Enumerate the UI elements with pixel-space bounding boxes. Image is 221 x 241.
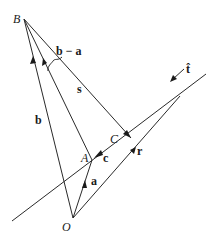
vector-r-label: r	[137, 144, 143, 158]
vector-a-arrowhead-icon	[82, 180, 87, 188]
line-t	[12, 74, 206, 221]
vector-b-label: b	[35, 113, 42, 127]
point-A-label: A	[80, 151, 89, 165]
vector-b-arrowhead-icon	[30, 56, 36, 64]
vector-c-label: c	[103, 151, 109, 165]
vector-c-arrowhead-icon	[94, 150, 103, 158]
vector-b-minus-a-label: b − a	[56, 44, 82, 58]
point-C-label: C	[110, 132, 119, 146]
point-B-label: B	[13, 12, 21, 26]
vector-b-minus-a-line	[24, 19, 92, 160]
vector-a-label: a	[91, 174, 97, 188]
vector-r-line	[73, 96, 180, 218]
point-O-label: O	[62, 220, 71, 234]
vector-diagram: B O A C b b − a s c a r t̂	[0, 0, 221, 241]
vector-a-line	[73, 160, 92, 218]
vector-r-arrowhead-icon	[130, 147, 136, 154]
t-hat-label: t̂	[186, 62, 190, 76]
vector-s-label: s	[77, 82, 82, 96]
